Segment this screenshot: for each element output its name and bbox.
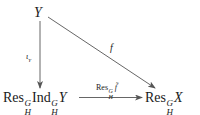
iota-subscript: Y <box>28 58 31 63</box>
ind-scripts: GH <box>51 99 58 115</box>
f-tilde: f̃ <box>115 83 117 92</box>
label-diagonal-f: f <box>110 43 113 53</box>
res-text: Res <box>3 90 24 105</box>
res-scripts: GH <box>25 99 32 115</box>
res-sub: H <box>25 108 32 115</box>
bottom-right-obj: X <box>174 90 183 105</box>
res-text: Res <box>96 83 108 92</box>
node-top-text: Y <box>34 5 42 20</box>
res-scripts: GH <box>167 99 174 115</box>
node-bottom-right: ResGHX <box>145 91 183 115</box>
label-horizontal: ResGHf̃ <box>96 84 117 100</box>
res-text: Res <box>145 90 166 105</box>
node-bottom-left: ResGHIndGHY <box>3 91 66 115</box>
label-vertical-iota: ιY <box>26 53 31 63</box>
node-top-y: Y <box>34 6 42 20</box>
res-sub: H <box>167 108 174 115</box>
ind-sub: H <box>51 108 58 115</box>
res-sub: H <box>109 95 113 101</box>
ind-text: Ind <box>32 90 51 105</box>
res-scripts: GH <box>109 89 113 100</box>
f-symbol: f <box>110 42 113 53</box>
bottom-left-obj: Y <box>59 90 67 105</box>
diagonal-arrow <box>48 17 155 88</box>
